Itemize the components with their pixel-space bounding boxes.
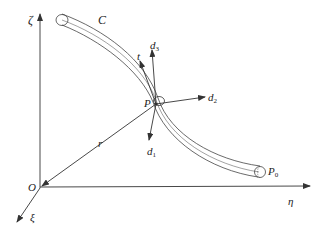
d2-label: d2: [208, 92, 217, 105]
xi-axis: [17, 188, 40, 222]
director-d1: [149, 104, 156, 140]
curve-label: C: [98, 14, 106, 26]
r-label: r: [98, 138, 102, 149]
t-label: t: [137, 51, 140, 62]
rod-diagram: ζ η ξ O C P P0 r t d3 d2 d1: [0, 0, 313, 237]
xi-label: ξ: [30, 212, 35, 223]
zeta-label: ζ: [28, 14, 33, 26]
d3-label: d3: [150, 40, 159, 53]
point-p0-label: P0: [268, 166, 278, 179]
eta-axis: [40, 186, 310, 187]
point-p-label: P: [144, 98, 151, 109]
origin-label: O: [28, 182, 36, 193]
d1-label: d1: [147, 146, 156, 159]
diagram-canvas: [0, 0, 313, 237]
eta-label: η: [288, 196, 293, 207]
